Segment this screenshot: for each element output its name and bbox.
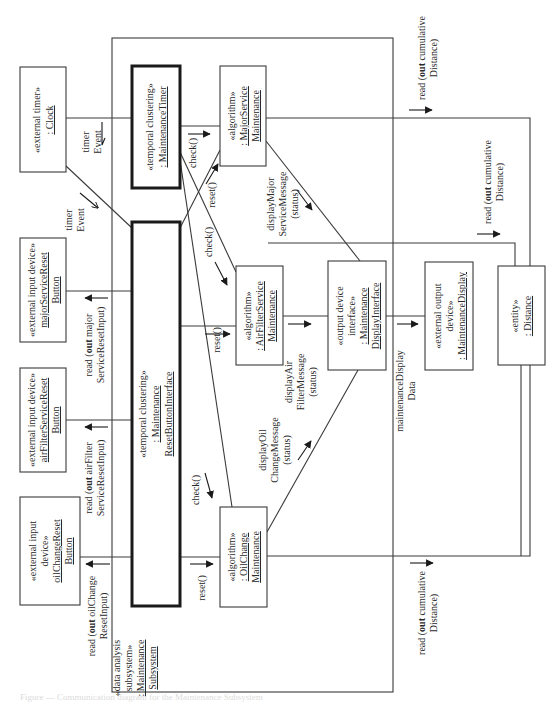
msg-reset-air: reset() [211, 327, 223, 353]
svg-text:check(): check() [190, 475, 202, 505]
svg-text:Button: Button [50, 276, 61, 303]
svg-text:oilChangeReset: oilChangeReset [51, 519, 62, 583]
svg-text:check(): check() [203, 227, 215, 257]
svg-text:interface»: interface» [346, 296, 357, 336]
svg-text:Button: Button [63, 537, 74, 564]
svg-text:Maintenance: Maintenance [250, 531, 261, 583]
svg-text:reset(): reset() [196, 575, 208, 601]
figure-caption: Figure — Communication diagram for the M… [20, 692, 263, 702]
svg-text:ChangeMessage: ChangeMessage [269, 417, 280, 483]
svg-text:Event: Event [92, 130, 103, 154]
svg-text:read (out airFilter: read (out airFilter [83, 442, 95, 514]
svg-text:timer: timer [80, 131, 91, 153]
msg-read-distance-top: read (out cumulative Distance) [416, 16, 440, 100]
display-interface-label: «output device interface» : Maintenance … [334, 282, 381, 349]
svg-text:reset(): reset() [206, 182, 218, 208]
oil-change-label: «algorithm» : OilChange Maintenance [226, 531, 261, 583]
svg-text:«external output: «external output [432, 283, 443, 348]
svg-text:read (out major: read (out major [83, 313, 95, 376]
msg-maintenance-display-data: maintenanceDisplay Data [394, 350, 417, 432]
svg-text:«external timer»: «external timer» [31, 87, 42, 153]
msg-read-oil: read (out oilChange ResetInput) [86, 575, 110, 656]
svg-text:Event: Event [75, 208, 86, 232]
svg-text:Distance): Distance) [494, 163, 506, 201]
svg-text:: Maintenance: : Maintenance [358, 287, 369, 344]
svg-text:read (out cumulative: read (out cumulative [482, 140, 494, 224]
timer-event-2-arrow-icon [80, 193, 98, 208]
svg-text:displayMajor: displayMajor [265, 177, 276, 231]
svg-text:device»: device» [444, 300, 455, 331]
msg-read-distance-mid: read (out cumulative Distance) [482, 140, 506, 224]
svg-text:«temporal clustering»: «temporal clustering» [137, 370, 148, 457]
svg-text:«output device: «output device [334, 286, 345, 346]
svg-text:DisplayInterface: DisplayInterface [370, 282, 381, 349]
svg-text:«temporal clustering»: «temporal clustering» [144, 83, 155, 170]
svg-text:«data analysis: «data analysis [111, 640, 122, 696]
svg-text:check(): check() [187, 138, 199, 168]
svg-text:Maintenance: Maintenance [266, 290, 277, 342]
svg-text:«external input device»: «external input device» [26, 373, 37, 467]
msg-reset-oil: reset() [196, 575, 208, 601]
msg-reset-major: reset() [206, 182, 218, 208]
svg-text:: MaintenanceTimer: : MaintenanceTimer [157, 86, 168, 168]
svg-text:«algorithm»: «algorithm» [226, 92, 237, 141]
svg-text:read (out oilChange: read (out oilChange [86, 575, 98, 656]
msg-check-major: check() [187, 138, 199, 168]
msg-timer-event-2: timer Event [63, 208, 86, 232]
svg-text:: Distance: : Distance [522, 295, 533, 336]
timer-event-1-arrow-icon [102, 122, 105, 145]
svg-text:: OilChange: : OilChange [238, 532, 249, 581]
svg-text:timer: timer [63, 209, 74, 231]
msg-check-air: check() [203, 227, 215, 257]
msg-check-oil: check() [190, 475, 202, 505]
svg-text:read (out cumulative: read (out cumulative [416, 571, 428, 655]
svg-text:displayOil: displayOil [257, 429, 268, 471]
svg-text:: Maintenance: : Maintenance [150, 385, 161, 442]
clock-box [20, 67, 66, 172]
major-service-label: «algorithm» : MajorService Maintenance [226, 86, 261, 146]
svg-text:reset(): reset() [211, 327, 223, 353]
svg-text:Data: Data [406, 381, 417, 400]
svg-text:(status): (status) [281, 435, 293, 464]
msg-read-air: read (out airFilter ServiceResetInput) [83, 440, 107, 517]
msg-read-distance-bottom: read (out cumulative Distance) [416, 571, 440, 655]
svg-text:Distance): Distance) [428, 594, 440, 632]
msg-timer-event-1: timer Event [80, 130, 103, 154]
svg-text:: Maintenance: : Maintenance [135, 639, 146, 696]
svg-text:: MaintenanceDisplay: : MaintenanceDisplay [456, 272, 467, 360]
svg-text:ResetInput): ResetInput) [98, 593, 110, 640]
svg-text:«entity»: «entity» [509, 300, 520, 333]
svg-text:maintenanceDisplay: maintenanceDisplay [394, 350, 405, 432]
subsystem-label: «data analysis subsystem» : Maintenance … [111, 639, 158, 696]
svg-text:(status): (status) [307, 367, 319, 396]
svg-text:read (out cumulative: read (out cumulative [416, 16, 428, 100]
communication-diagram: «external timer» : Clock «temporal clust… [0, 0, 560, 705]
svg-text:airFilterServiceReset: airFilterServiceReset [38, 378, 49, 463]
svg-text:Subsystem: Subsystem [147, 646, 158, 690]
msg-read-major: read (out major ServiceResetInput) [83, 307, 107, 384]
svg-text:Maintenance: Maintenance [250, 90, 261, 142]
svg-text:: AirFilterService: : AirFilterService [254, 281, 265, 351]
svg-text:«external input: «external input [27, 521, 38, 581]
svg-text:ResetButtonInterface: ResetButtonInterface [163, 371, 174, 457]
svg-text:«algorithm»: «algorithm» [226, 533, 237, 582]
svg-text:FilterMessage: FilterMessage [295, 353, 306, 410]
maintenance-timer-box [132, 66, 180, 188]
svg-text:ServiceResetInput): ServiceResetInput) [95, 307, 107, 384]
svg-text:displayAir: displayAir [283, 360, 294, 403]
svg-text:«algorithm»: «algorithm» [242, 292, 253, 341]
svg-text:: MajorService: : MajorService [238, 86, 249, 146]
svg-text:subsystem»: subsystem» [123, 645, 134, 692]
svg-text:Distance): Distance) [428, 39, 440, 77]
svg-text:: Clock: : Clock [44, 105, 55, 134]
svg-text:device»: device» [39, 535, 50, 566]
svg-text:Button: Button [50, 406, 61, 433]
svg-text:majorServiceReset: majorServiceReset [38, 252, 49, 328]
svg-text:ServiceMessage: ServiceMessage [277, 171, 288, 237]
svg-text:«external input device»: «external input device» [26, 243, 37, 337]
svg-text:ServiceResetInput): ServiceResetInput) [95, 440, 107, 517]
